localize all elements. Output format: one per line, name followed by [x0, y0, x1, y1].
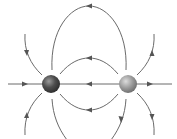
positive-charge: [119, 75, 137, 93]
dipole-field-diagram: [0, 0, 177, 139]
arrow-down-icon: [119, 116, 124, 123]
arrow-left-icon: [86, 108, 92, 113]
outer-bottom-right-field-line: [111, 99, 126, 139]
arrow-left-icon: [86, 82, 92, 87]
outer-top-field-line: [52, 6, 126, 70]
arrow-left-icon: [86, 56, 92, 61]
arrow-left-icon: [86, 4, 92, 9]
arrow-down-icon: [150, 114, 155, 120]
field-lines-canvas: [0, 0, 177, 139]
arrow-right-icon: [147, 82, 153, 87]
negative-charge: [42, 75, 60, 93]
outer-bottom-left-field-line: [52, 99, 67, 139]
arrow-up-icon: [150, 50, 155, 56]
inner-bottom-field-line: [60, 94, 118, 110]
inner-top-field-line: [60, 58, 118, 74]
arrow-right-icon: [22, 82, 28, 87]
